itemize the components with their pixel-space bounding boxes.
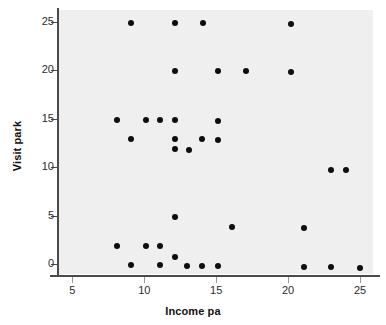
data-point (128, 20, 134, 26)
data-point (215, 137, 221, 143)
data-point (172, 68, 178, 74)
x-tick-label: 25 (345, 285, 375, 296)
x-tick-mark (360, 277, 361, 283)
y-tick-label: 20 (28, 64, 54, 75)
scatter-chart: 0510152025 510152025 Income pa Visit par… (0, 0, 386, 325)
x-axis-title: Income pa (0, 305, 386, 317)
data-point (215, 263, 221, 269)
data-point (200, 20, 206, 26)
y-tick-label: 0 (28, 258, 54, 269)
data-point (215, 118, 221, 124)
x-axis-line (50, 275, 380, 277)
data-point (157, 117, 163, 123)
y-tick-label: 15 (28, 113, 54, 124)
data-point (114, 243, 120, 249)
x-tick-label: 15 (201, 285, 231, 296)
x-tick-mark (144, 277, 145, 283)
x-tick-mark (216, 277, 217, 283)
data-point (343, 167, 349, 173)
data-point (143, 117, 149, 123)
data-point (288, 21, 294, 27)
data-point (114, 117, 120, 123)
data-point (172, 214, 178, 220)
data-point (143, 243, 149, 249)
x-tick-label: 10 (129, 285, 159, 296)
data-point (172, 117, 178, 123)
data-point (172, 20, 178, 26)
y-axis-title: Visit park (11, 101, 23, 191)
x-tick-mark (288, 277, 289, 283)
y-tick-label: 5 (28, 210, 54, 221)
y-tick-label: 25 (28, 16, 54, 27)
x-tick-mark (72, 277, 73, 283)
data-point (172, 254, 178, 260)
data-point (199, 136, 205, 142)
x-tick-label: 20 (273, 285, 303, 296)
x-tick-label: 5 (57, 285, 87, 296)
y-axis-line (57, 8, 59, 276)
data-point (186, 147, 192, 153)
data-point (172, 136, 178, 142)
y-tick-label: 10 (28, 161, 54, 172)
data-point (172, 146, 178, 152)
data-point (157, 243, 163, 249)
data-point (215, 68, 221, 74)
